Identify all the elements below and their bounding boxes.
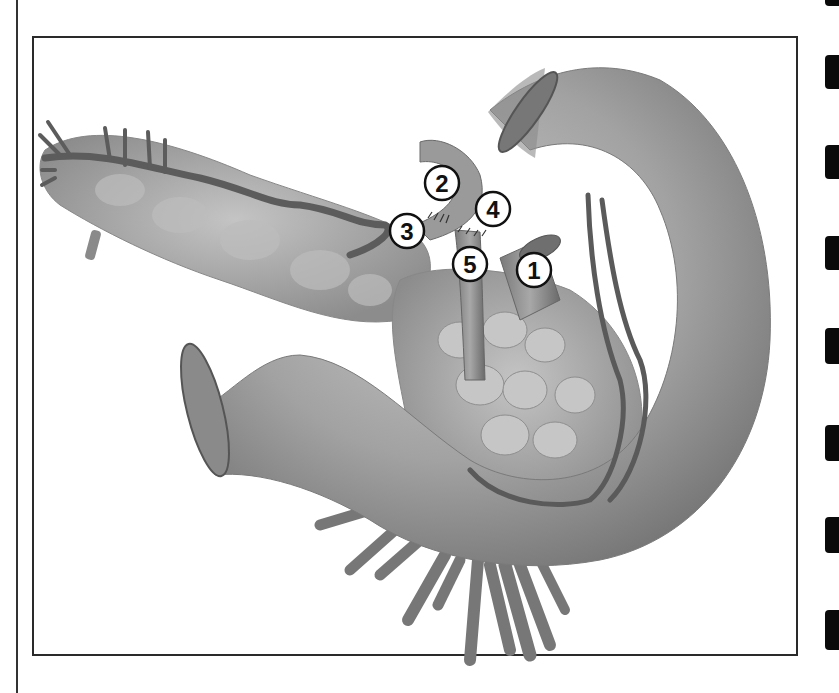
callout-3: 3: [390, 214, 424, 248]
callout-4: 4: [476, 192, 510, 226]
svg-text:2: 2: [435, 170, 448, 197]
callout-1: 1: [517, 253, 551, 287]
callout-5: 5: [453, 247, 487, 281]
stump-vessel: [84, 229, 101, 261]
svg-text:1: 1: [527, 257, 540, 284]
svg-text:5: 5: [463, 251, 476, 278]
svg-text:4: 4: [486, 196, 500, 223]
callout-2: 2: [425, 166, 459, 200]
svg-text:3: 3: [400, 218, 413, 245]
